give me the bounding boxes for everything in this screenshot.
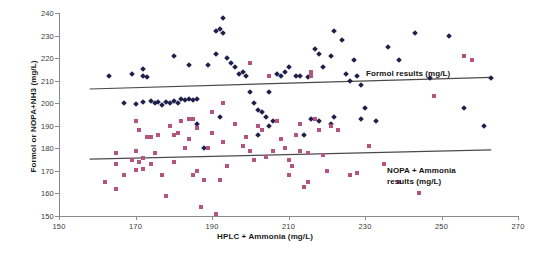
x-tick-mark <box>518 216 519 220</box>
x-tick-mark <box>365 216 366 220</box>
y-axis-title: Formol or NOPA+NH3 (mg/L) <box>29 22 38 212</box>
x-tick-mark <box>136 216 137 220</box>
x-tick-label: 190 <box>205 222 218 231</box>
scatter-chart: 150160170180190200210220230240 Formol or… <box>0 0 533 256</box>
x-axis-title: HPLC + Ammonia (mg/L) <box>180 232 350 241</box>
formol-series-annotation: Formol results (mg/L) <box>366 68 450 79</box>
x-tick-mark <box>59 216 60 220</box>
nopa-series-annotation: NOPA + Ammonia results (mg/L) <box>387 165 456 187</box>
y-tick-label: 240 <box>20 9 54 18</box>
x-tick-label: 250 <box>435 222 448 231</box>
x-tick-label: 210 <box>282 222 295 231</box>
x-tick-label: 170 <box>129 222 142 231</box>
x-tick-mark <box>212 216 213 220</box>
x-tick-label: 230 <box>358 222 371 231</box>
trendline <box>90 150 492 159</box>
trendline <box>90 77 492 89</box>
y-tick-label: 150 <box>20 212 54 221</box>
x-tick-label: 270 <box>511 222 524 231</box>
x-tick-mark <box>289 216 290 220</box>
x-tick-mark <box>442 216 443 220</box>
x-tick-label: 150 <box>52 222 65 231</box>
